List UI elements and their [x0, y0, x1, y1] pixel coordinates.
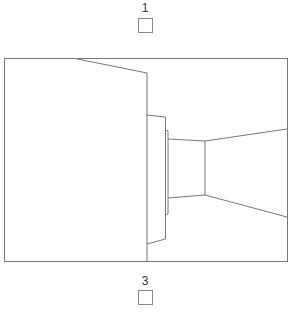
- corridor-scene: [0, 0, 291, 313]
- corridor-ceiling: [205, 129, 287, 141]
- option-3-label: 3: [135, 275, 155, 287]
- door-panel: [147, 115, 166, 244]
- corridor-floor: [205, 195, 287, 217]
- option-3-checkbox[interactable]: [138, 290, 153, 305]
- left-wall: [75, 59, 147, 262]
- corridor-end: [168, 139, 205, 198]
- scene-frame: [5, 59, 288, 262]
